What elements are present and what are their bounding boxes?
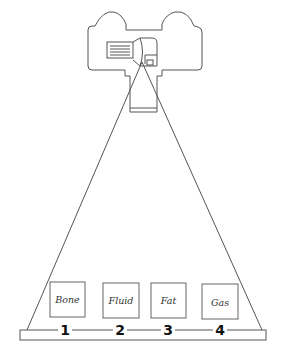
material-box-fat: Fat: [151, 283, 186, 318]
svg-text:1: 1: [60, 322, 70, 338]
svg-text:4: 4: [215, 322, 225, 338]
material-box-bone: Bone: [50, 282, 85, 317]
svg-text:Gas: Gas: [211, 297, 229, 308]
svg-text:Fluid: Fluid: [108, 295, 134, 306]
detector-plate: [20, 330, 266, 340]
svg-text:Bone: Bone: [54, 294, 80, 305]
svg-text:3: 3: [163, 322, 173, 338]
svg-text:2: 2: [115, 322, 125, 338]
material-box-gas: Gas: [202, 284, 238, 319]
xray-tube-housing: [88, 12, 202, 112]
xray-attenuation-diagram: Bone Fluid Fat Gas 1 2 3 4: [0, 0, 283, 363]
material-box-fluid: Fluid: [103, 283, 139, 318]
svg-text:Fat: Fat: [160, 295, 177, 306]
